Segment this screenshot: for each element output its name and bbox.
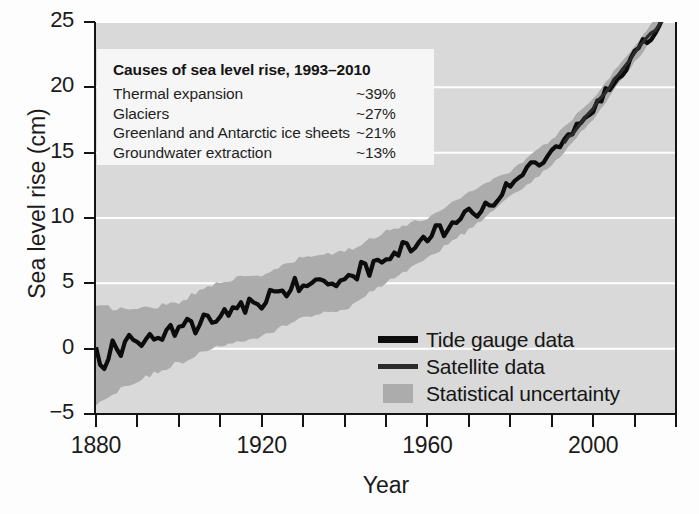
sea-level-rise-chart: Causes of sea level rise, 1993–2010 Ther…	[0, 0, 699, 514]
y-tick-mark	[84, 413, 95, 415]
inset-percent-value: ~13%	[356, 143, 416, 163]
x-tick-mark	[95, 415, 97, 427]
inset-percent-value: ~27%	[356, 104, 416, 124]
causes-inset-box: Causes of sea level rise, 1993–2010 Ther…	[97, 49, 434, 165]
y-tick-mark	[84, 217, 95, 219]
legend-label: Statistical uncertainty	[426, 382, 620, 406]
inset-percent-value: ~39%	[356, 84, 416, 104]
x-tick-mark	[385, 415, 387, 427]
y-axis-title: Sea level rise (cm)	[24, 4, 51, 404]
inset-row: Glaciers ~27%	[113, 104, 434, 124]
satellite-line-swatch-icon	[376, 364, 420, 369]
inset-cause-label: Groundwater extraction	[113, 143, 356, 163]
x-tick-label: 2000	[548, 432, 638, 458]
y-tick-mark	[84, 21, 95, 23]
inset-row: Greenland and Antarctic ice sheets ~21%	[113, 123, 434, 143]
x-tick-mark	[178, 415, 180, 427]
x-tick-mark	[426, 415, 428, 427]
x-tick-mark	[344, 415, 346, 427]
x-tick-label: 1960	[382, 432, 472, 458]
x-tick-label: 1920	[217, 432, 307, 458]
y-tick-label: −5	[30, 401, 74, 423]
x-tick-mark	[468, 415, 470, 427]
inset-cause-label: Thermal expansion	[113, 84, 356, 104]
x-tick-mark	[261, 415, 263, 427]
y-tick-mark	[84, 348, 95, 350]
legend-item-satellite: Satellite data	[376, 353, 661, 380]
x-tick-mark	[219, 415, 221, 427]
inset-row: Thermal expansion ~39%	[113, 84, 434, 104]
x-tick-mark	[509, 415, 511, 427]
y-tick-mark	[84, 282, 95, 284]
y-tick-mark	[84, 152, 95, 154]
plot-area: Causes of sea level rise, 1993–2010 Ther…	[96, 22, 676, 414]
tide-gauge-line-swatch-icon	[376, 336, 420, 343]
legend-item-tide-gauge: Tide gauge data	[376, 326, 661, 353]
inset-percent-value: ~21%	[356, 123, 416, 143]
plot-right-border	[675, 22, 677, 416]
y-tick-mark	[84, 86, 95, 88]
uncertainty-band-swatch-icon	[376, 384, 420, 403]
inset-title: Causes of sea level rise, 1993–2010	[113, 61, 434, 79]
legend-label: Tide gauge data	[426, 328, 574, 352]
x-tick-mark	[302, 415, 304, 427]
legend-label: Satellite data	[426, 355, 545, 379]
x-tick-mark	[551, 415, 553, 427]
x-tick-label: 1880	[51, 432, 141, 458]
x-tick-mark	[592, 415, 594, 427]
legend-item-uncertainty: Statistical uncertainty	[376, 380, 661, 407]
chart-legend: Tide gauge data Satellite data Statistic…	[376, 326, 661, 407]
inset-row: Groundwater extraction ~13%	[113, 143, 434, 163]
x-tick-mark	[675, 415, 677, 427]
x-tick-mark	[634, 415, 636, 427]
x-axis-title: Year	[96, 472, 676, 499]
inset-cause-label: Glaciers	[113, 104, 356, 124]
inset-cause-label: Greenland and Antarctic ice sheets	[113, 123, 356, 143]
x-tick-mark	[136, 415, 138, 427]
